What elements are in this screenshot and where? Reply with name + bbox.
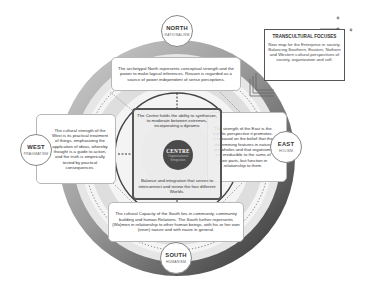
south-subtitle: HUMANISM xyxy=(166,260,186,264)
north-subtitle: RATIONALISM xyxy=(165,33,190,37)
north-label: NORTH xyxy=(166,25,188,31)
south-description-box: The cultural Capacity of the South lies … xyxy=(108,202,244,242)
north-circle: NORTH RATIONALISM xyxy=(161,15,193,47)
centre-label: CENTRE xyxy=(166,148,189,154)
north-description-box: The archetypal North represents conceptu… xyxy=(111,57,241,91)
centre-box: The Centre holds the ability to synthesi… xyxy=(132,108,222,200)
centre-circle: CENTRE Organisational Integration xyxy=(163,140,193,170)
transcultural-focuses-body: New map for the Enterprise in society. B… xyxy=(268,42,341,63)
west-label: WEST xyxy=(27,144,45,150)
centre-top-text: The Centre holds the ability to synthesi… xyxy=(136,113,218,129)
north-description: The archetypal North represents conceptu… xyxy=(115,66,237,82)
centre-bottom-text: Balance and integration that serves to i… xyxy=(136,178,218,194)
west-subtitle: PRAGMATISM xyxy=(24,152,49,156)
west-circle: WEST PRAGMATISM xyxy=(20,134,52,166)
transcultural-focuses-title: TRANSCULTURAL FOCUSES xyxy=(268,34,341,40)
south-label: SOUTH xyxy=(165,252,186,258)
south-description: The cultural Capacity of the South lies … xyxy=(112,211,240,232)
east-circle: EAST HOLISM xyxy=(270,131,302,163)
east-label: EAST xyxy=(278,141,294,147)
west-description: The cultural strength of the West is its… xyxy=(51,128,109,170)
east-subtitle: HOLISM xyxy=(279,149,293,153)
transcultural-focuses-box: TRANSCULTURAL FOCUSES New map for the En… xyxy=(264,29,345,81)
centre-subtitle: Organisational Integration xyxy=(163,155,193,163)
south-circle: SOUTH HUMANISM xyxy=(160,242,192,274)
